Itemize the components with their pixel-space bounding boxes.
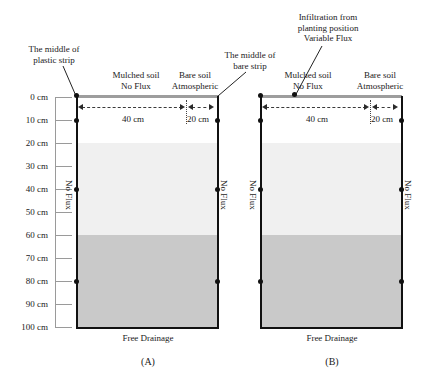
panel-b-right-boundary [401, 96, 403, 329]
panel-a-node-surface-left [74, 93, 79, 98]
depth-label-40: 40 cm [2, 185, 48, 194]
panel-a-bottom-boundary [76, 327, 219, 329]
panel-b-bottom-boundary-label: Free Drainage [287, 333, 377, 344]
panel-b-bottom-boundary [260, 327, 403, 329]
depth-label-20: 20 cm [2, 139, 48, 148]
panel-a-bottom-boundary-label: Free Drainage [103, 333, 193, 344]
ruler-tick-0 [55, 97, 72, 98]
panel-a-surface-right-line2: Atmospheric [153, 81, 237, 92]
panel-a-right-boundary-label: No Flux [219, 180, 228, 210]
ruler-tick-80 [55, 281, 72, 282]
panel-a-node-right-80 [215, 279, 220, 284]
panel-a-node-left-80 [74, 279, 79, 284]
panel-a-node-left-40 [74, 187, 79, 192]
panel-a-dim-right-arrow-end [209, 104, 214, 110]
panel-b-node-right-80 [399, 279, 404, 284]
panel-b-dim-left-arrow-end [364, 104, 369, 110]
panel-b-width-left: 40 cm [288, 114, 346, 125]
panel-a-layer-20-60 [77, 143, 218, 235]
panel-a-node-right-10 [215, 118, 220, 123]
depth-label-70: 70 cm [2, 254, 48, 263]
panel-a-dim-left-line [82, 107, 182, 109]
panel-b-node-surface-left [258, 93, 263, 98]
depth-label-50: 50 cm [2, 208, 48, 217]
panel-a-dim-left-arrow-end [180, 104, 185, 110]
panel-a-node-left-10 [74, 118, 79, 123]
panel-b-layer-20-60 [261, 143, 402, 235]
depth-label-30: 30 cm [2, 162, 48, 171]
panel-b-left-boundary-label: No Flux [248, 180, 257, 210]
panel-b-caption: (B) [302, 356, 362, 367]
ruler-tick-60 [55, 235, 72, 236]
panel-b-node-left-10 [258, 118, 263, 123]
panel-b-dim-left-line [266, 107, 366, 109]
ruler-tick-90 [55, 304, 72, 305]
depth-label-10: 10 cm [2, 116, 48, 125]
depth-label-100: 100 cm [2, 323, 48, 332]
panel-b-layer-60-100 [261, 235, 402, 327]
depth-label-60: 60 cm [2, 231, 48, 240]
panel-a-dim-right-arrow-start [188, 104, 193, 110]
panel-a-caption: (A) [118, 356, 178, 367]
panel-a-layer-60-100 [77, 235, 218, 327]
ruler-tick-100 [55, 327, 72, 328]
soil-domain-figure: 0 cm 10 cm 20 cm 30 cm 40 cm 50 cm 60 cm… [0, 0, 426, 382]
panel-b-soil-column [261, 97, 402, 327]
panel-b-dim-left-arrow-start [262, 104, 267, 110]
panel-a-right-boundary [217, 96, 219, 329]
panel-a-left-boundary-label: No Flux [64, 180, 73, 210]
annotation-middle-plastic-strip: The middle of plastic strip [8, 44, 100, 65]
panel-b-surface-right-line2: Atmospheric [338, 81, 422, 92]
depth-label-80: 80 cm [2, 277, 48, 286]
panel-b-node-right-10 [399, 118, 404, 123]
ruler-tick-20 [55, 143, 72, 144]
panel-a-surface-right-line1: Bare soil [155, 70, 235, 81]
panel-b-left-boundary [260, 96, 262, 329]
depth-label-0: 0 cm [2, 93, 48, 102]
panel-b-dim-right-arrow-end [393, 104, 398, 110]
panel-a-dim-left-arrow-start [78, 104, 83, 110]
panel-a-width-left: 40 cm [104, 114, 162, 125]
panel-a-left-boundary [76, 96, 78, 329]
ruler-tick-70 [55, 258, 72, 259]
panel-a-mulch-surface [77, 95, 218, 98]
ruler-tick-50 [55, 212, 72, 213]
panel-b-surface-left-line1: Mulched soil [265, 70, 351, 81]
panel-b-infiltration-node [292, 92, 297, 97]
panel-b-node-left-40 [258, 187, 263, 192]
ruler-tick-10 [55, 120, 72, 121]
panel-b-mulch-surface [261, 95, 402, 98]
annotation-middle-bare-strip: The middle of bare strip [204, 50, 296, 71]
panel-b-node-left-80 [258, 279, 263, 284]
depth-label-90: 90 cm [2, 300, 48, 309]
panel-a-soil-column [77, 97, 218, 327]
ruler-tick-30 [55, 166, 72, 167]
panel-b-surface-right-line1: Bare soil [340, 70, 420, 81]
annotation-infiltration: Infiltration from planting position Vari… [278, 12, 378, 44]
panel-b-dim-right-arrow-start [372, 104, 377, 110]
panel-b-right-boundary-label: No Flux [403, 180, 412, 210]
